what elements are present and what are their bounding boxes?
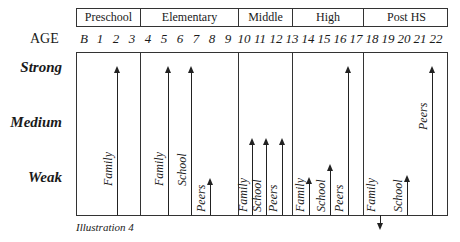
age-tick: 21 (413, 31, 427, 47)
arrow-label: School (392, 179, 404, 212)
stage-middle: Middle (239, 9, 293, 26)
arrow-label: Peers (267, 185, 279, 212)
arrow-shaft (168, 71, 169, 215)
age-tick: B (77, 31, 91, 47)
figure-caption: Illustration 4 (76, 221, 134, 233)
stage-post-hs: Post HS (364, 9, 449, 26)
age-tick: 20 (397, 31, 411, 47)
arrow-up-icon (114, 66, 120, 73)
arrow-label: Peers (195, 185, 207, 212)
arrow-shaft (330, 169, 331, 215)
stage-divider (140, 52, 141, 216)
stage-elementary: Elementary (141, 9, 239, 26)
arrow-shaft (210, 183, 211, 215)
arrow-label: Family (237, 178, 249, 212)
arrow-label: Family (294, 178, 306, 212)
arrow-shaft (191, 71, 192, 215)
arrow-label: School (251, 179, 263, 212)
age-tick: 11 (253, 31, 267, 47)
age-tick: 1 (93, 31, 107, 47)
age-tick: 16 (333, 31, 347, 47)
arrow-up-icon (429, 66, 435, 73)
arrow-label: Family (153, 152, 165, 186)
stage-high: High (293, 9, 364, 26)
age-tick: 19 (381, 31, 395, 47)
arrow-up-icon (263, 138, 269, 145)
age-tick: 14 (301, 31, 315, 47)
age-label: AGE (30, 31, 59, 47)
arrow-label: Peers (333, 185, 345, 212)
arrow-label: Family (102, 152, 114, 186)
arrow-label: School (176, 153, 188, 186)
arrow-up-icon (327, 164, 333, 171)
age-tick: 17 (349, 31, 363, 47)
arrow-up-icon (279, 138, 285, 145)
age-tick: 13 (285, 31, 299, 47)
arrow-shaft (282, 143, 283, 215)
arrow-shaft (117, 71, 118, 215)
arrow-shaft (407, 180, 408, 215)
stage-header: PreschoolElementaryMiddleHighPost HS (76, 8, 448, 27)
arrow-shaft (309, 182, 310, 215)
arrow-up-icon (165, 66, 171, 73)
age-tick: 5 (157, 31, 171, 47)
age-tick: 6 (173, 31, 187, 47)
level-weak: Weak (0, 169, 62, 186)
arrow-up-icon (207, 178, 213, 185)
arrow-label: Family (365, 178, 377, 212)
arrow-shaft (432, 71, 433, 215)
arrow-up-icon (345, 66, 351, 73)
stage-preschool: Preschool (77, 9, 141, 26)
age-tick: 22 (429, 31, 443, 47)
age-tick: 4 (141, 31, 155, 47)
age-tick: 15 (317, 31, 331, 47)
level-medium: Medium (0, 114, 62, 131)
age-tick: 3 (125, 31, 139, 47)
arrow-up-icon (249, 138, 255, 145)
age-tick: 2 (109, 31, 123, 47)
arrow-label: School (315, 179, 327, 212)
age-tick: 18 (365, 31, 379, 47)
level-strong: Strong (0, 59, 62, 76)
age-tick: 12 (269, 31, 283, 47)
arrow-label: Peers (417, 103, 429, 130)
age-tick: 10 (237, 31, 251, 47)
arrow-shaft (348, 71, 349, 215)
age-tick: 9 (221, 31, 235, 47)
arrow-up-icon (188, 66, 194, 73)
age-tick: 8 (205, 31, 219, 47)
age-tick: 7 (189, 31, 203, 47)
arrow-down-icon (377, 223, 383, 230)
